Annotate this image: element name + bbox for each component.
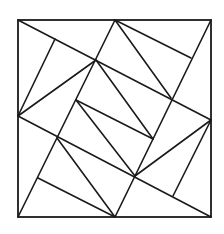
- line-tl-to-r: [18, 20, 211, 120]
- dissection-diagram: [0, 0, 224, 234]
- line-l-to-br: [18, 116, 211, 217]
- line-a-to-d: [76, 100, 135, 176]
- line-t-to-c: [115, 20, 171, 98]
- line-f-to-bm: [57, 138, 115, 217]
- line-l-to-b: [18, 60, 96, 116]
- line-r-to-foot-br: [173, 120, 211, 196]
- segment-group: [18, 20, 211, 217]
- line-r-to-d: [135, 120, 211, 176]
- line-t-to-bl: [18, 20, 115, 217]
- line-foot-bl-to-bm: [38, 178, 115, 217]
- line-a-to-e: [76, 100, 153, 139]
- line-l-to-foot-tl: [18, 39, 55, 116]
- line-t-to-foot-tr: [115, 20, 191, 58]
- outer-square: [18, 20, 211, 217]
- line-b-to-e: [96, 60, 153, 139]
- line-tr-to-bm: [115, 20, 211, 217]
